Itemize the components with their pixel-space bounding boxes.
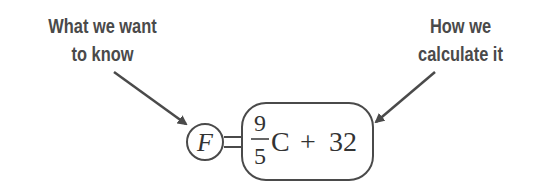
lhs-variable: F [196,128,214,157]
constant: 32 [329,126,357,157]
fraction-denominator: 5 [254,143,266,169]
arrow-left-icon [114,72,186,124]
arrow-right-icon [376,72,435,122]
rhs-variable: C [271,126,290,157]
equation-diagram: F 9 5 C + 32 [0,0,544,185]
plus-sign: + [300,126,316,157]
fraction-numerator: 9 [254,110,266,136]
